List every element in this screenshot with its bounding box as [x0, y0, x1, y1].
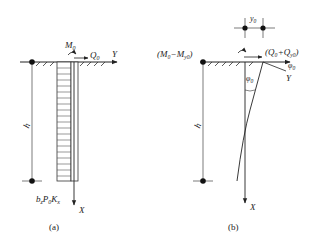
top-node-b: [200, 59, 206, 65]
x-axis-label-a: X: [78, 205, 85, 215]
ground-hatch-b: [208, 62, 253, 66]
rotation-label-left: φ0: [246, 74, 253, 84]
moment-label-b: (M₀−My0): [157, 49, 192, 60]
top-node-a: [29, 59, 35, 65]
rotated-y-axis: [263, 62, 286, 71]
rotation-label-right: φ0: [288, 61, 295, 71]
caption-a: (a): [49, 222, 59, 232]
panel-b: y0 (M₀−My0) (Q₀+Qy0) φ0 Y φ0 h: [157, 14, 298, 232]
pressure-label: bzP0Kx: [36, 194, 60, 205]
shear-label-b: (Q₀+Qy0): [265, 47, 298, 58]
pile-a: [71, 62, 78, 181]
depth-label-a: h: [21, 121, 32, 129]
y-axis-label-a: Y: [112, 49, 118, 59]
moment-label-a: M0: [64, 40, 76, 51]
pile-diagram: M0 Q0 Y h bzP0Kx X (a) y0: [0, 0, 317, 244]
shear-label-a: Q0: [90, 50, 100, 61]
rotation-angle-arc: [245, 90, 255, 91]
bottom-node-b: [200, 178, 206, 184]
panel-a: M0 Q0 Y h bzP0Kx X (a): [20, 40, 118, 232]
bottom-node-a: [29, 178, 35, 184]
moment-arrow-b: [238, 50, 246, 53]
displacement-label: y0: [249, 14, 257, 24]
caption-b: (b): [228, 222, 239, 232]
moment-arrow-a: [68, 52, 76, 55]
depth-label-b: h: [192, 121, 203, 129]
x-axis-label-b: X: [249, 202, 256, 212]
y-axis-label-b: Y: [286, 73, 292, 83]
